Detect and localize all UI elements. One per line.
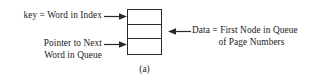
label-key: key = Word in Index: [0, 10, 102, 22]
record-cell-pointer: [128, 39, 161, 54]
label-data-line1: Data = First Node in Queue: [192, 25, 298, 35]
label-data: Data = First Node in Queue of Page Numbe…: [192, 25, 319, 48]
record-cell-key: [128, 10, 161, 25]
label-data-line2: of Page Numbers: [192, 37, 319, 49]
label-pointer-line2: Word in Queue: [44, 50, 102, 60]
record-cell-data: [128, 25, 161, 40]
label-pointer-line1: Pointer to Next: [44, 38, 102, 48]
arrow-right-icon: [104, 40, 128, 49]
label-pointer: Pointer to Next Word in Queue: [0, 38, 102, 61]
arrow-left-icon: [166, 27, 191, 36]
figure-container: key = Word in Index Pointer to Next Word…: [0, 0, 319, 83]
arrow-right-icon: [104, 12, 128, 21]
figure-caption: (a): [127, 64, 162, 75]
record-box: [127, 9, 162, 55]
